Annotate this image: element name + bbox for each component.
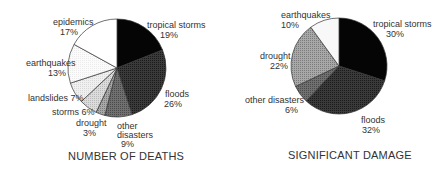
label-earthquakes: earthquakes bbox=[26, 58, 76, 68]
label-tropical-storms: tropical storms bbox=[147, 20, 206, 30]
label-drought: drought bbox=[260, 51, 291, 61]
label-floods: floods bbox=[165, 89, 190, 99]
label-other-disasters-pct: 6% bbox=[285, 105, 298, 115]
label-storms: storms 6% bbox=[52, 107, 95, 117]
label-earthquakes: earthquakes bbox=[281, 10, 331, 20]
right-chart-title: SIGNIFICANT DAMAGE bbox=[288, 149, 412, 161]
label-earthquakes-pct: 10% bbox=[281, 20, 299, 30]
label-floods-pct: 32% bbox=[362, 125, 380, 135]
left-chart-title: NUMBER OF DEATHS bbox=[68, 150, 184, 162]
label-tropical-storms-pct: 19% bbox=[160, 30, 178, 40]
label-other-disasters-pct: 9% bbox=[121, 139, 134, 149]
pie-significant-damage bbox=[291, 18, 387, 114]
label-epidemics: epidemics bbox=[53, 17, 94, 27]
label-floods: floods bbox=[361, 115, 386, 125]
chart-canvas: tropical storms 19% floods 26% other dis… bbox=[0, 0, 445, 178]
label-other-disasters: other disasters bbox=[245, 95, 305, 105]
label-floods-pct: 26% bbox=[164, 99, 182, 109]
label-epidemics-pct: 17% bbox=[60, 27, 78, 37]
label-earthquakes-pct: 13% bbox=[48, 68, 66, 78]
label-drought-pct: 3% bbox=[83, 128, 96, 138]
label-drought: drought bbox=[76, 118, 107, 128]
label-landslides: landslides 7% bbox=[28, 93, 84, 103]
label-drought-pct: 22% bbox=[270, 61, 288, 71]
label-tropical-storms-pct: 30% bbox=[386, 29, 404, 39]
label-tropical-storms: tropical storms bbox=[373, 19, 432, 29]
